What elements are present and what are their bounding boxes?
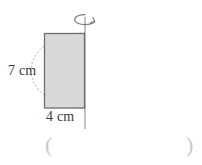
width-dimension-label: 4 cm	[46, 109, 74, 125]
height-dimension-label: 7 cm	[8, 63, 36, 79]
answer-close-paren: )	[186, 134, 193, 156]
answer-open-paren: (	[45, 134, 52, 156]
rectangle-shape	[45, 34, 85, 109]
answer-blank[interactable]	[58, 136, 184, 158]
geometry-figure: 7 cm 4 cm ( )	[0, 0, 202, 165]
